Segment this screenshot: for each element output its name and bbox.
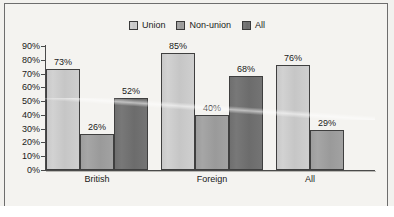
x-category-label-british: British: [46, 174, 148, 184]
bar-group-foreign: 85% 40% 68%: [161, 46, 263, 170]
legend-label-all: All: [255, 21, 265, 30]
legend-label-union: Union: [142, 21, 166, 30]
bar-label-british-non-union: 26%: [88, 123, 106, 132]
y-tick-label-60: 60%: [6, 83, 40, 92]
y-tick-label-90: 90%: [6, 42, 40, 51]
y-tick-mark-60: [41, 87, 45, 88]
bar-foreign-union[interactable]: 85%: [161, 53, 195, 170]
y-tick-mark-90: [41, 46, 45, 47]
y-tick-label-40: 40%: [6, 111, 40, 120]
y-tick-label-20: 20%: [6, 138, 40, 147]
y-tick-mark-40: [41, 115, 45, 116]
y-tick-mark-20: [41, 142, 45, 143]
grouped-bar-chart: Union Non-union All 90% 80% 70% 60% 50% …: [0, 0, 394, 217]
y-tick-label-30: 30%: [6, 125, 40, 134]
y-tick-label-50: 50%: [6, 97, 40, 106]
chart-legend: Union Non-union All: [0, 21, 394, 30]
legend-swatch-non-union: [176, 21, 185, 30]
legend-item-union[interactable]: Union: [129, 21, 166, 30]
legend-item-all[interactable]: All: [242, 21, 265, 30]
y-axis-labels: 90% 80% 70% 60% 50% 40% 30% 20% 10% 0%: [2, 0, 40, 217]
legend-label-non-union: Non-union: [189, 21, 231, 30]
legend-swatch-all: [242, 21, 251, 30]
bar-foreign-non-union[interactable]: 40%: [195, 115, 229, 170]
y-tick-mark-10: [41, 156, 45, 157]
bar-all-union[interactable]: 76%: [276, 65, 310, 170]
bar-british-non-union[interactable]: 26%: [80, 134, 114, 170]
page-bottom-margin: [0, 206, 394, 217]
x-axis-line-shadow: [46, 171, 376, 172]
chart-page: Union Non-union All 90% 80% 70% 60% 50% …: [0, 0, 394, 217]
y-tick-label-0: 0%: [6, 166, 40, 175]
y-tick-mark-30: [41, 129, 45, 130]
bar-british-union[interactable]: 73%: [46, 69, 80, 170]
bar-group-british: 73% 26% 52%: [46, 46, 148, 170]
bar-label-british-all: 52%: [122, 87, 140, 96]
plot-area: 73% 26% 52% 85% 40% 68%: [46, 46, 375, 170]
x-category-label-foreign: Foreign: [161, 174, 263, 184]
y-tick-label-80: 80%: [6, 56, 40, 65]
legend-item-non-union[interactable]: Non-union: [176, 21, 231, 30]
bar-label-all-union: 76%: [284, 54, 302, 63]
y-tick-label-70: 70%: [6, 70, 40, 79]
y-tick-mark-80: [41, 60, 45, 61]
bar-foreign-all[interactable]: 68%: [229, 76, 263, 170]
y-tick-mark-50: [41, 101, 45, 102]
bar-group-all: 76% 29%: [276, 46, 344, 170]
bar-label-foreign-all: 68%: [237, 65, 255, 74]
bar-label-british-union: 73%: [54, 58, 72, 67]
legend-swatch-union: [129, 21, 138, 30]
bar-label-foreign-non-union: 40%: [203, 104, 221, 113]
bar-label-foreign-union: 85%: [169, 42, 187, 51]
x-category-label-all: All: [276, 174, 344, 184]
bar-label-all-non-union: 29%: [318, 119, 336, 128]
bar-all-non-union[interactable]: 29%: [310, 130, 344, 170]
y-tick-mark-70: [41, 74, 45, 75]
bar-british-all[interactable]: 52%: [114, 98, 148, 170]
y-tick-label-10: 10%: [6, 152, 40, 161]
